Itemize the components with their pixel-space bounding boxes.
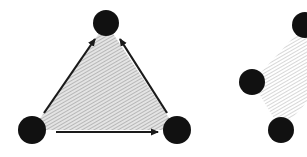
diagram-canvas — [0, 0, 307, 157]
node-top — [93, 10, 119, 36]
node-square-top-right — [292, 12, 307, 38]
node-bottom-left — [18, 116, 46, 144]
node-square-bottom — [268, 117, 294, 143]
triangle-face — [32, 23, 177, 130]
node-square-left — [239, 69, 265, 95]
node-bottom-right — [163, 116, 191, 144]
